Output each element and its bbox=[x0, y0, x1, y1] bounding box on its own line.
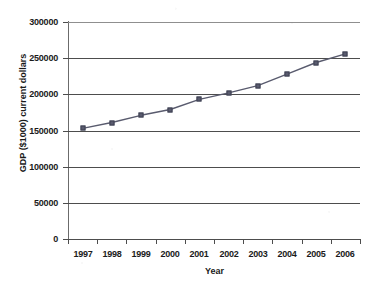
x-tick-5 bbox=[214, 239, 215, 244]
data-point-2006 bbox=[343, 51, 348, 56]
y-tick-label-250000: 250000 bbox=[4, 54, 58, 63]
x-tick-1 bbox=[97, 239, 98, 244]
data-point-1997 bbox=[80, 126, 85, 131]
x-tick-2 bbox=[126, 239, 127, 244]
x-tick-8 bbox=[302, 239, 303, 244]
x-tick-3 bbox=[156, 239, 157, 244]
x-tick-0 bbox=[68, 239, 69, 244]
series-line-gdp bbox=[68, 22, 360, 239]
x-tick-label-2006: 2006 bbox=[328, 249, 362, 259]
data-point-2001 bbox=[197, 97, 202, 102]
y-tick-label-300000: 300000 bbox=[4, 18, 58, 27]
y-tick-label-50000: 50000 bbox=[4, 199, 58, 208]
data-point-2000 bbox=[168, 107, 173, 112]
x-tick-9 bbox=[331, 239, 332, 244]
y-tick-label-200000: 200000 bbox=[4, 90, 58, 99]
x-axis-title: Year bbox=[68, 266, 361, 276]
gdp-line-chart: GDP ($1000) current dollars 050000100000… bbox=[0, 0, 374, 286]
y-tick-label-150000: 150000 bbox=[4, 127, 58, 136]
y-tick-label-100000: 100000 bbox=[4, 163, 58, 172]
data-point-2005 bbox=[314, 60, 319, 65]
data-point-2002 bbox=[226, 90, 231, 95]
y-tick-label-0: 0 bbox=[4, 235, 58, 244]
data-point-2004 bbox=[285, 72, 290, 77]
plot-area bbox=[68, 22, 360, 239]
data-point-2003 bbox=[255, 83, 260, 88]
data-point-1999 bbox=[139, 113, 144, 118]
x-tick-4 bbox=[185, 239, 186, 244]
x-tick-10 bbox=[360, 239, 361, 244]
x-tick-label-2001: 2001 bbox=[182, 249, 216, 259]
chart-screenshot: GDP ($1000) current dollars 050000100000… bbox=[0, 0, 374, 286]
x-tick-6 bbox=[243, 239, 244, 244]
x-tick-7 bbox=[272, 239, 273, 244]
data-point-1998 bbox=[109, 120, 114, 125]
